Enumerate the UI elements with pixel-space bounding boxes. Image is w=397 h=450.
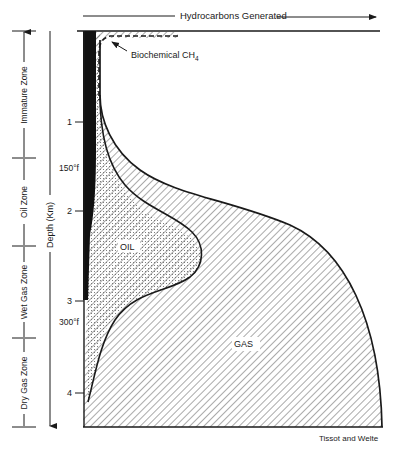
zone-brackets: Immature Zone Oil Zone Wet Gas Zone Dry … bbox=[12, 31, 36, 427]
biochemical-text: Biochemical CH bbox=[131, 50, 195, 60]
temperature-150f: 150°f bbox=[59, 163, 80, 173]
depth-ticks: 1 2 3 4 bbox=[67, 117, 84, 398]
biochemical-ch4-label: Biochemical CH4 bbox=[112, 42, 199, 62]
gas-label: GAS bbox=[234, 339, 253, 349]
header-title: Hydrocarbons Generated bbox=[180, 10, 287, 21]
depth-tick-label-4: 4 bbox=[67, 388, 72, 398]
biochemical-subscript: 4 bbox=[195, 55, 199, 62]
credit-label: Tissot and Welte bbox=[319, 434, 379, 443]
temperature-300f: 300°f bbox=[59, 317, 80, 327]
depth-tick-label-2: 2 bbox=[67, 206, 72, 216]
biochemical-dashed-line bbox=[99, 36, 178, 100]
zone-label-immature: Immature Zone bbox=[19, 66, 29, 124]
biochemical-pointer-icon bbox=[112, 42, 127, 51]
depth-tick-label-3: 3 bbox=[67, 296, 72, 306]
hydrocarbons-axis-header: Hydrocarbons Generated bbox=[83, 10, 376, 21]
zone-label-oil: Oil Zone bbox=[19, 186, 29, 218]
zone-label-wet-gas: Wet Gas Zone bbox=[19, 264, 29, 319]
biochemical-region bbox=[95, 32, 178, 50]
hydrocarbon-generation-diagram: Hydrocarbons Generated Biochemical CH4 O… bbox=[0, 0, 397, 450]
depth-axis-title: Depth (Km) bbox=[45, 202, 55, 248]
zone-label-dry-gas: Dry Gas Zone bbox=[19, 356, 29, 409]
svg-text:Biochemical CH4: Biochemical CH4 bbox=[131, 50, 199, 62]
oil-label: OIL bbox=[120, 242, 135, 252]
depth-tick-label-1: 1 bbox=[67, 117, 72, 127]
depth-axis: Depth (Km) bbox=[45, 31, 55, 426]
